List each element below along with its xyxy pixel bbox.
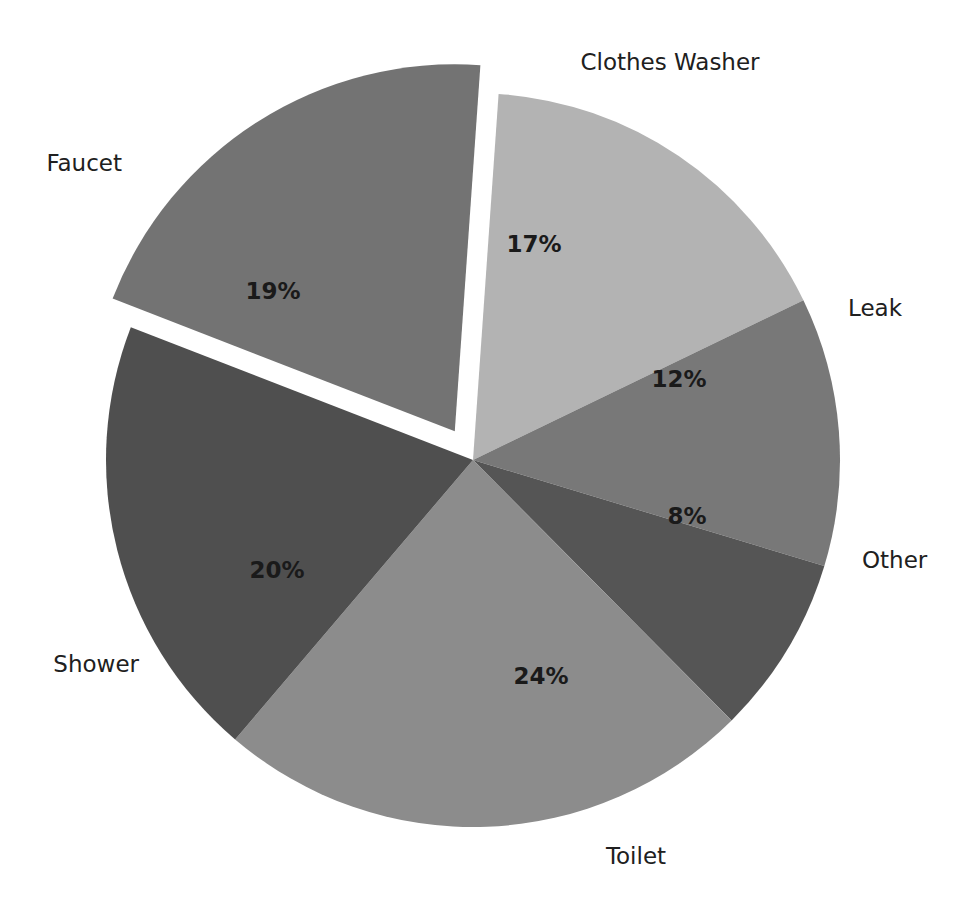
- pie-category-label-shower: Shower: [53, 651, 139, 677]
- pie-category-label-other: Other: [862, 547, 928, 573]
- pie-value-label-other: 8%: [667, 503, 706, 529]
- pie-chart-svg: 17%12%8%24%20%19% Clothes WasherLeakOthe…: [0, 0, 966, 899]
- pie-value-label-faucet: 19%: [245, 278, 300, 304]
- pie-category-label-toilet: Toilet: [605, 843, 666, 869]
- pie-value-label-clothes-washer: 17%: [506, 231, 561, 257]
- pie-category-label-leak: Leak: [848, 295, 903, 321]
- pie-value-label-leak: 12%: [651, 366, 706, 392]
- pie-chart-figure: 17%12%8%24%20%19% Clothes WasherLeakOthe…: [0, 0, 966, 899]
- pie-value-label-shower: 20%: [249, 557, 304, 583]
- pie-category-label-clothes-washer: Clothes Washer: [580, 49, 760, 75]
- pie-category-label-faucet: Faucet: [46, 150, 122, 176]
- pie-value-label-toilet: 24%: [513, 663, 568, 689]
